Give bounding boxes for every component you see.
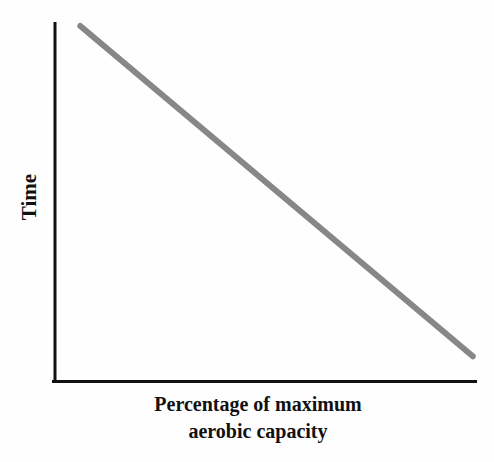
chart-figure: Time Percentage of maximum aerobic capac… (0, 0, 494, 462)
data-line (80, 26, 473, 356)
x-axis-label-line1: Percentage of maximum (78, 391, 438, 418)
x-axis-label: Percentage of maximum aerobic capacity (78, 391, 438, 445)
y-axis-label: Time (17, 174, 41, 220)
x-axis-label-line2: aerobic capacity (78, 418, 438, 445)
